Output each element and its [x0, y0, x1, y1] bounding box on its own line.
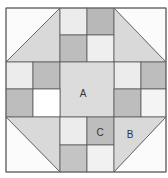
label-a: A [80, 88, 87, 99]
cell-r5-c3 [87, 145, 114, 172]
cell-r0-c3 [87, 8, 114, 35]
cell-r2-c0 [6, 62, 33, 89]
label-b: B [127, 129, 134, 140]
cell-r1-c2 [60, 35, 87, 62]
cell-r0-c2 [60, 8, 87, 35]
cell-r4-c2 [60, 117, 87, 145]
center-square-a [60, 62, 114, 117]
cell-r3-c0 [6, 89, 33, 117]
cell-r3-c5 [141, 89, 166, 117]
quilt-block-diagram: A C B [0, 0, 168, 178]
cell-r2-c1 [33, 62, 60, 89]
cell-r3-c1 [33, 89, 60, 117]
cell-r2-c4 [114, 62, 141, 89]
cell-r2-c5 [141, 62, 166, 89]
label-c: C [96, 127, 103, 138]
cell-r1-c3 [87, 35, 114, 62]
cell-r3-c4 [114, 89, 141, 117]
cell-r5-c2 [60, 145, 87, 172]
